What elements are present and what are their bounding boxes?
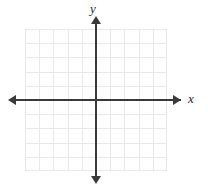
arrow-right-icon	[173, 95, 181, 105]
x-axis-label: x	[188, 92, 194, 105]
coordinate-plane-figure: y x	[0, 0, 208, 188]
arrow-down-icon	[91, 176, 101, 184]
y-axis-label: y	[90, 2, 96, 15]
arrow-left-icon	[8, 95, 16, 105]
y-axis	[95, 24, 97, 179]
x-axis	[14, 99, 181, 101]
arrow-up-icon	[91, 16, 101, 24]
